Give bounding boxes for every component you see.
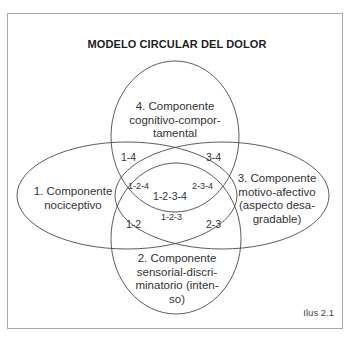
component-1-line-2: nociceptivo bbox=[28, 199, 118, 213]
component-4-line-3: tamental bbox=[115, 127, 235, 141]
component-2-line-3: minatorio (inten- bbox=[122, 279, 232, 293]
figure-caption: Ilus 2.1 bbox=[303, 307, 334, 318]
component-1-label: 1. Componente nociceptivo bbox=[28, 185, 118, 212]
region-1-2-3-4: 1-2-3-4 bbox=[153, 190, 187, 202]
component-4-line-2: cognitivo-compor- bbox=[115, 114, 235, 128]
component-2-line-4: so) bbox=[122, 293, 232, 307]
component-3-line-4: gradable) bbox=[230, 213, 324, 227]
region-2-3-4: 2-3-4 bbox=[192, 181, 213, 191]
component-1-line-1: 1. Componente bbox=[28, 185, 118, 199]
component-4-line-1: 4. Componente bbox=[115, 100, 235, 114]
component-3-label: 3. Componente motivo-afectivo (aspecto d… bbox=[230, 172, 324, 226]
component-3-line-2: motivo-afectivo bbox=[230, 186, 324, 200]
component-2-label: 2. Componente sensorial-discri- minatori… bbox=[122, 252, 232, 306]
region-1-2-4: 1-2-4 bbox=[128, 181, 149, 191]
component-2-line-2: sensorial-discri- bbox=[122, 266, 232, 280]
component-3-line-3: (aspecto desa- bbox=[230, 199, 324, 213]
component-3-line-1: 3. Componente bbox=[230, 172, 324, 186]
component-4-label: 4. Componente cognitivo-compor- tamental bbox=[115, 100, 235, 141]
component-2-line-1: 2. Componente bbox=[122, 252, 232, 266]
region-1-2: 1-2 bbox=[126, 218, 141, 230]
region-1-4: 1-4 bbox=[121, 151, 136, 163]
region-2-3: 2-3 bbox=[206, 218, 221, 230]
region-1-2-3: 1-2-3 bbox=[161, 212, 182, 222]
region-3-4: 3-4 bbox=[206, 151, 221, 163]
